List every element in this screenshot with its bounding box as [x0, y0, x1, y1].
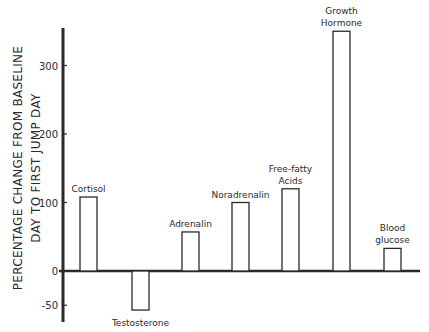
- y-axis-label-line: DAY TO FIRST JUMP DAY: [29, 93, 43, 243]
- bar-label: Free-fatty: [269, 164, 313, 174]
- bar-chart: PERCENTAGE CHANGE FROM BASELINEDAY TO FI…: [0, 0, 429, 332]
- bar-free-fatty-acids: [282, 189, 299, 271]
- bar-blood-glucose: [384, 248, 401, 271]
- y-tick-label: 300: [39, 61, 58, 72]
- y-axis-label-line: PERCENTAGE CHANGE FROM BASELINE: [11, 46, 25, 290]
- bar-label: Testosterone: [111, 318, 170, 328]
- y-axis-label: PERCENTAGE CHANGE FROM BASELINEDAY TO FI…: [11, 46, 43, 290]
- bar-label: Noradrenalin: [211, 190, 269, 200]
- bar-adrenalin: [182, 232, 199, 271]
- axes: 3002001000-50: [39, 28, 420, 322]
- bars: [80, 31, 401, 310]
- bar-label: Cortisol: [71, 184, 105, 194]
- y-tick-label: 0: [52, 266, 58, 277]
- bar-cortisol: [80, 197, 97, 271]
- bar-label: Blood: [380, 223, 405, 233]
- bar-label: glucose: [375, 235, 410, 245]
- bar-noradrenalin: [232, 203, 249, 272]
- bar-labels: CortisolTestosteroneAdrenalinNoradrenali…: [71, 6, 410, 328]
- y-tick-label: -50: [42, 300, 58, 311]
- bar-label: Adrenalin: [169, 219, 212, 229]
- y-tick-label: 100: [39, 198, 58, 209]
- bar-label: Acids: [279, 176, 303, 186]
- bar-growth-hormone: [333, 31, 350, 271]
- bar-label: Growth: [325, 6, 358, 16]
- y-tick-label: 200: [39, 129, 58, 140]
- bar-testosterone: [132, 271, 149, 310]
- bar-label: Hormone: [321, 18, 363, 28]
